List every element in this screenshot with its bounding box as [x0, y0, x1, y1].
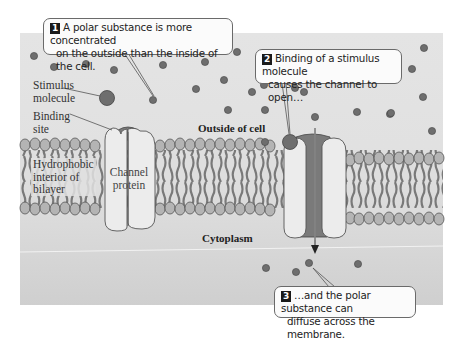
- hydrophobic-interior-label: Hydrophobic interior of bilayer: [31, 158, 96, 196]
- open-channel-protein: [283, 128, 347, 254]
- callout-3: 3…and the polar substance can diffuse ac…: [274, 286, 416, 318]
- callout-3-line-1: …and the polar substance can: [281, 289, 371, 314]
- step-1-badge: 1: [50, 23, 60, 34]
- callout-2-line-2: causes the channel to open…: [262, 78, 395, 104]
- callout-1-line-1: A polar substance is more concentrated: [50, 21, 192, 46]
- binding-site-label: Binding site: [33, 110, 70, 135]
- step-2-badge: 2: [262, 54, 272, 65]
- callout-3-line-2: diffuse across the membrane.: [281, 315, 409, 341]
- channel-protein-label: Channel protein: [109, 166, 149, 191]
- callout-1-line-2: on the outside than the inside of the ce…: [50, 47, 226, 73]
- callout-2-line-1: Binding of a stimulus molecule: [262, 52, 379, 77]
- stimulus-molecule-label: Stimulus molecule: [33, 79, 75, 104]
- callout-2: 2Binding of a stimulus molecule causes t…: [255, 49, 402, 84]
- step-3-badge: 3: [281, 291, 291, 302]
- bound-stimulus-molecule: [283, 135, 298, 150]
- callout-1: 1A polar substance is more concentrated …: [43, 18, 233, 55]
- outside-of-cell-label: Outside of cell: [198, 122, 265, 134]
- cytoplasm-label: Cytoplasm: [202, 232, 253, 244]
- stimulus-molecule: [100, 91, 115, 106]
